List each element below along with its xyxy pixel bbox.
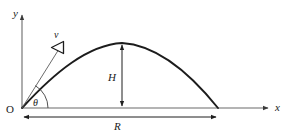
origin-label: O xyxy=(6,103,14,115)
y-axis-label: y xyxy=(12,7,18,19)
x-axis-label: x xyxy=(274,101,280,113)
range-label: R xyxy=(113,120,121,132)
max-height-label: H xyxy=(107,71,117,83)
figure-canvas: y x O θ v H R xyxy=(0,0,287,134)
initial-velocity-label: v xyxy=(54,29,59,40)
axes-group xyxy=(22,15,268,108)
projectile-motion-figure: y x O θ v H R xyxy=(0,0,287,134)
velocity-vector-shaft xyxy=(22,49,59,108)
launch-angle-label: θ xyxy=(33,97,38,108)
parabolic-trajectory xyxy=(22,43,218,108)
